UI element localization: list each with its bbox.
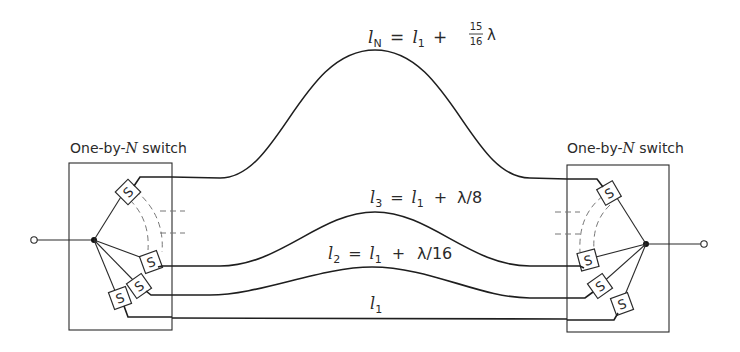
switch-element-icon: S xyxy=(139,250,162,273)
svg-text:l1: l1 xyxy=(370,294,382,316)
left-switch: One-by-N switch S S S S xyxy=(31,140,187,330)
svg-text:l3 = l1 +: l3 = l1 + λ/8 xyxy=(370,188,482,210)
left-arc-dashed xyxy=(135,190,162,252)
right-switch-label: One-by-N switch xyxy=(567,140,684,156)
svg-text:15: 15 xyxy=(470,21,483,32)
switch-element-icon: S xyxy=(108,286,131,309)
output-port-icon xyxy=(701,241,707,247)
switch-element-icon: S xyxy=(610,292,633,315)
fiber-path-lN xyxy=(172,50,567,179)
left-switch-label: One-by-N switch xyxy=(70,140,187,156)
svg-text:lN = l1 +: lN = l1 + xyxy=(368,27,447,51)
fiber-path-l1 xyxy=(172,318,567,319)
label-l2: l2 = l1 + λ/16 xyxy=(328,244,452,266)
switch-element-icon: S xyxy=(115,179,140,204)
label-lN: lN = l1 + 15 16 λ xyxy=(368,21,496,51)
delay-line-diagram: One-by-N switch S S S S xyxy=(0,0,740,352)
input-port-icon xyxy=(31,237,37,243)
svg-text:l2 = l1 +: l2 = l1 + λ/16 xyxy=(328,244,452,266)
right-arc-dashed xyxy=(580,196,603,252)
svg-text:16: 16 xyxy=(470,36,483,47)
label-l1: l1 xyxy=(370,294,382,316)
svg-text:λ: λ xyxy=(487,26,496,44)
switch-element-icon: S xyxy=(577,249,599,271)
right-switch: One-by-N switch S S S S xyxy=(555,140,707,332)
label-l3: l3 = l1 + λ/8 xyxy=(370,188,482,210)
